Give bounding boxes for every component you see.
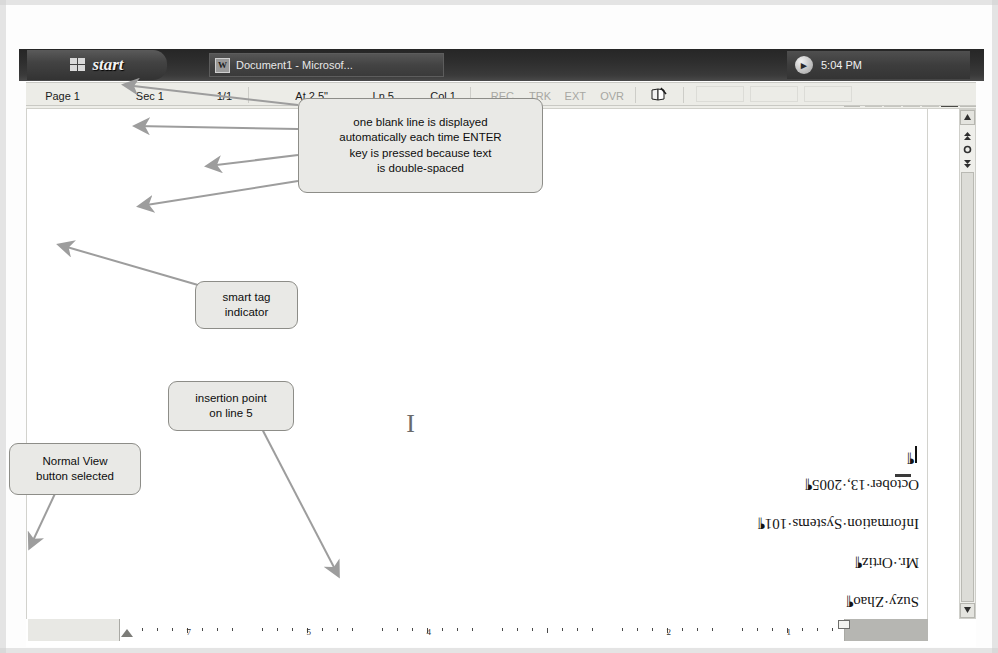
scroll-up-arrow-icon[interactable]	[960, 603, 975, 618]
ruler-number: 5	[307, 627, 312, 637]
ruler-number: 7	[187, 627, 192, 637]
rotated-screenshot-canvas: 1 2 4 5 7 Suzy·Zhao¶ Mr.·Ortiz¶ Informat…	[0, 0, 998, 653]
paragraph-mark: ¶	[907, 450, 914, 467]
horizontal-ruler[interactable]: 1 2 4 5 7	[28, 618, 928, 641]
callout-insertion-point-text: insertion point on line 5	[195, 391, 267, 421]
system-tray: ▸ 5:04 PM	[787, 51, 970, 79]
ruler-number: 2	[667, 627, 672, 637]
first-line-indent-marker-icon[interactable]	[121, 629, 133, 637]
smart-tag-indicator-icon[interactable]	[895, 474, 911, 477]
i-beam-pointer-icon: I	[406, 411, 415, 437]
insertion-point-caret	[915, 446, 917, 463]
select-browse-object-icon[interactable]	[961, 143, 974, 156]
status-mode-ext[interactable]: EXT	[565, 90, 586, 102]
callout-blank-line-text: one blank line is displayed automaticall…	[339, 115, 501, 176]
left-indent-marker-icon[interactable]	[838, 620, 850, 629]
taskbar-item-label: Document1 - Microsof...	[236, 59, 353, 71]
windows-taskbar: start W Document1 - Microsof... ▸ 5:04 P…	[19, 49, 984, 81]
vertical-scrollbar[interactable]	[959, 109, 976, 619]
scroll-down-arrow-icon[interactable]	[960, 110, 975, 125]
callout-normal-view-text: Normal View button selected	[36, 454, 114, 484]
system-clock[interactable]: 5:04 PM	[821, 59, 862, 71]
start-button-label: start	[92, 55, 123, 75]
status-section: Sec 1	[136, 90, 164, 102]
start-button[interactable]: start	[27, 50, 167, 80]
status-page: Page 1	[45, 90, 80, 102]
callout-normal-view: Normal View button selected	[9, 443, 141, 495]
ruler-number: 4	[427, 627, 432, 637]
document-line-4: October·13,·2005¶	[805, 465, 919, 504]
callout-insertion-point: insertion point on line 5	[168, 381, 294, 431]
ruler-tick-marks	[28, 619, 928, 641]
callout-smart-tag-text: smart tag indicator	[223, 290, 271, 320]
callout-smart-tag: smart tag indicator	[195, 281, 298, 329]
windows-flag-icon	[70, 58, 86, 72]
callout-blank-line: one blank line is displayed automaticall…	[298, 98, 543, 193]
word-document-icon: W	[215, 58, 230, 73]
next-object-icon[interactable]	[961, 129, 974, 142]
document-line-1: Suzy·Zhao¶	[846, 582, 919, 621]
chevron-right-icon[interactable]: ▸	[795, 56, 813, 74]
spelling-and-grammar-check-icon[interactable]	[650, 87, 668, 102]
document-line-3: Information·Systems·101¶	[758, 504, 919, 543]
document-line-2: Mr.·Ortiz¶	[855, 543, 919, 582]
ruler-number: 1	[787, 627, 792, 637]
vertical-scroll-thumb[interactable]	[961, 172, 974, 602]
previous-object-icon[interactable]	[961, 157, 974, 170]
status-page-of-pages: 1/1	[217, 90, 232, 102]
taskbar-item-document1[interactable]: W Document1 - Microsof...	[209, 53, 444, 77]
status-mode-ovr[interactable]: OVR	[600, 90, 624, 102]
